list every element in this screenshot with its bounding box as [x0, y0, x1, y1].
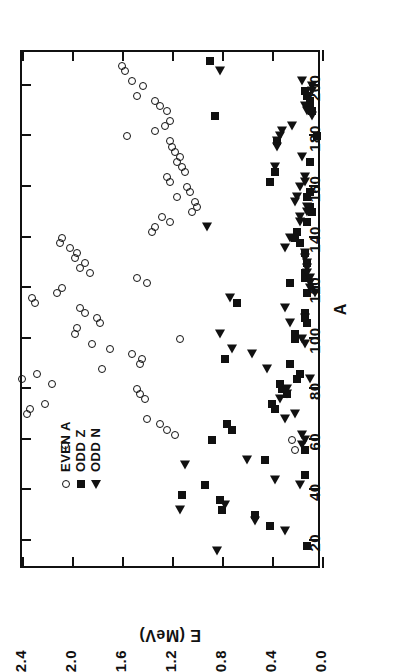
data-point-odd-n — [220, 501, 230, 510]
data-point-odd-n — [280, 304, 290, 313]
data-point-even-a — [163, 107, 171, 115]
data-point-even-a — [188, 208, 196, 216]
y-tick-label: 1.6 — [112, 650, 129, 672]
data-point-odd-n — [297, 152, 307, 161]
data-point-even-a — [123, 132, 131, 140]
data-point-odd-z — [211, 112, 219, 120]
data-point-odd-n — [247, 349, 257, 358]
data-point-odd-z — [221, 355, 229, 363]
y-tick-label: 2.0 — [62, 650, 79, 672]
data-point-odd-n — [295, 481, 305, 490]
data-point-odd-n — [280, 415, 290, 424]
x-tick-label: 40 — [306, 483, 323, 501]
data-point-even-a — [41, 400, 49, 408]
y-tick — [172, 557, 174, 568]
data-point-odd-n — [290, 410, 300, 419]
y-tick — [72, 557, 74, 568]
data-point-even-a — [71, 254, 79, 262]
x-tick-label: 200 — [306, 75, 323, 102]
data-point-even-a — [56, 239, 64, 247]
legend-label-odd-n: ODD N — [88, 428, 103, 472]
y-tick-right — [122, 50, 124, 61]
data-point-even-a — [98, 365, 106, 373]
data-point-even-a — [181, 168, 189, 176]
data-point-even-a — [139, 82, 147, 90]
y-tick — [222, 557, 224, 568]
data-point-odd-z — [201, 481, 209, 489]
data-point-even-a — [86, 269, 94, 277]
legend-entry-odd-n: ODD N — [88, 421, 103, 490]
data-point-even-a — [133, 92, 141, 100]
x-tick-label: 120 — [306, 277, 323, 304]
data-point-even-a — [166, 178, 174, 186]
data-point-even-a — [171, 431, 179, 439]
x-tick-label: 60 — [306, 433, 323, 451]
data-point-even-a — [166, 218, 174, 226]
data-point-odd-z — [266, 522, 274, 530]
data-point-even-a — [133, 274, 141, 282]
x-tick-top — [20, 84, 31, 86]
data-point-even-a — [23, 410, 31, 418]
data-point-odd-n — [295, 182, 305, 191]
data-point-even-a — [128, 350, 136, 358]
data-point-even-a — [151, 127, 159, 135]
data-point-even-a — [161, 122, 169, 130]
data-point-odd-n — [270, 162, 280, 171]
data-point-even-a — [128, 77, 136, 85]
data-point-odd-z — [206, 57, 214, 65]
data-point-odd-n — [175, 506, 185, 515]
data-point-odd-n — [215, 329, 225, 338]
data-point-even-a — [53, 289, 61, 297]
data-point-even-a — [136, 360, 144, 368]
data-point-odd-n — [300, 314, 310, 323]
data-point-even-a — [81, 309, 89, 317]
data-point-odd-z — [178, 491, 186, 499]
data-point-odd-z — [296, 239, 304, 247]
y-tick — [22, 557, 24, 568]
data-point-odd-n — [275, 395, 285, 404]
x-axis-title: A — [332, 50, 350, 568]
data-point-even-a — [33, 370, 41, 378]
data-point-odd-n — [295, 218, 305, 227]
data-point-even-a — [96, 319, 104, 327]
y-tick-label: 0.0 — [312, 650, 329, 672]
legend-entry-odd-z: ODD Z — [73, 421, 88, 490]
x-tick-top — [20, 539, 31, 541]
data-point-odd-n — [215, 66, 225, 75]
data-point-odd-n — [202, 223, 212, 232]
y-tick — [322, 557, 324, 568]
x-tick-top — [20, 236, 31, 238]
data-point-odd-z — [261, 456, 269, 464]
data-point-odd-n — [250, 516, 260, 525]
y-tick-right — [22, 50, 24, 61]
data-point-even-a — [186, 188, 194, 196]
x-tick-label: 180 — [306, 125, 323, 152]
data-point-odd-z — [228, 426, 236, 434]
x-tick-top — [20, 488, 31, 490]
x-tick-label: 160 — [306, 176, 323, 203]
x-tick-label: 20 — [306, 534, 323, 552]
x-tick-label: 80 — [306, 382, 323, 400]
data-point-even-a — [31, 299, 39, 307]
data-point-even-a — [288, 436, 296, 444]
data-point-odd-n — [180, 460, 190, 469]
data-point-odd-z — [271, 405, 279, 413]
data-point-odd-n — [212, 546, 222, 555]
y-tick — [272, 557, 274, 568]
data-point-odd-n — [280, 243, 290, 252]
data-point-odd-n — [272, 142, 282, 151]
legend-label-odd-z: ODD Z — [73, 429, 88, 472]
y-tick-label: 0.8 — [212, 650, 229, 672]
y-tick-right — [222, 50, 224, 61]
data-point-odd-n — [285, 319, 295, 328]
data-point-odd-n — [262, 364, 272, 373]
data-point-odd-n — [287, 122, 297, 131]
data-point-odd-n — [290, 198, 300, 207]
x-tick-top — [20, 337, 31, 339]
plot-frame — [20, 50, 320, 568]
y-tick-right — [72, 50, 74, 61]
filled-triangle-icon — [91, 479, 101, 490]
y-axis-title: E (MeV) — [139, 626, 201, 644]
y-tick-right — [272, 50, 274, 61]
x-tick-top — [20, 134, 31, 136]
